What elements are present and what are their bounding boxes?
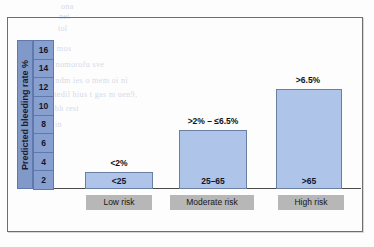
bar-inner-label: >65	[277, 176, 341, 186]
y-axis-tick: 4	[33, 152, 54, 172]
category-label-high-risk: High risk	[278, 195, 344, 210]
bar-top-label: >2% – ≤6.5%	[172, 116, 254, 126]
y-axis-tick: 10	[33, 96, 54, 116]
bar-moderate-risk: 25–65	[179, 130, 247, 189]
category-label-moderate-risk: Moderate risk	[170, 195, 254, 210]
y-axis-tick: 14	[33, 59, 54, 79]
bar-top-label: <2%	[85, 158, 153, 168]
bar-inner-label: <25	[86, 176, 152, 186]
bar-low-risk: <25	[85, 172, 153, 189]
y-axis-tick: 2	[33, 170, 54, 190]
bar-top-label: >6.5%	[274, 75, 342, 85]
y-axis-tick: 12	[33, 77, 54, 97]
y-axis-tick: 16	[33, 40, 54, 60]
y-axis-tick: 8	[33, 115, 54, 135]
y-axis-title-label: Predicted bleeding rate %	[20, 59, 30, 169]
y-axis-tick-stack: 16 14 12 10 8 6 4 2	[33, 40, 54, 189]
bar-chart: Predicted bleeding rate % 16 14 12 10 8 …	[0, 0, 374, 247]
bar-inner-label: 25–65	[180, 176, 246, 186]
y-axis-tick: 6	[33, 133, 54, 153]
category-label-low-risk: Low risk	[86, 195, 152, 210]
y-axis-title: Predicted bleeding rate %	[17, 40, 33, 189]
scanned-page-background: ona net tol mos nomorofu sve ndm ies o m…	[0, 0, 374, 247]
bar-high-risk: >65	[276, 89, 342, 189]
